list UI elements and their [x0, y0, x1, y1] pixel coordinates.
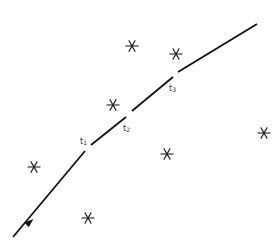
star-marker-icon [258, 127, 271, 138]
label-subscript: 2 [126, 126, 130, 133]
label-subscript: 1 [83, 139, 87, 146]
trajectory-segment [91, 117, 126, 145]
star-markers [28, 40, 271, 223]
star-marker-icon [126, 40, 139, 51]
time-label-t1: t1 [80, 138, 87, 146]
star-marker-icon [28, 161, 41, 172]
label-subscript: 3 [172, 86, 176, 93]
trajectory-line [13, 24, 257, 237]
time-label-t2: t2 [123, 125, 130, 133]
star-marker-icon [82, 212, 95, 223]
time-label-t3: t3 [169, 85, 176, 93]
trajectory-segment [178, 24, 257, 72]
trajectory-segment [13, 151, 85, 237]
trajectory-diagram [0, 0, 280, 249]
star-marker-icon [107, 99, 120, 110]
diagram-canvas: t1 t2 t3 [0, 0, 280, 249]
trajectory-segment [132, 77, 173, 111]
star-marker-icon [161, 148, 174, 159]
star-marker-icon [170, 48, 183, 59]
